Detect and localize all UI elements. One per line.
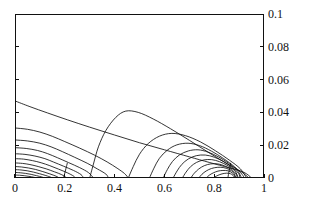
contour-line (15, 167, 59, 178)
x-tick-label: 0.8 (207, 182, 222, 194)
contour-line (15, 175, 37, 178)
contour-lines (15, 14, 264, 178)
x-tick (14, 174, 15, 178)
y-tick-left (15, 46, 19, 47)
y-tick-label: 0.1 (268, 8, 283, 20)
contour-line (15, 128, 128, 178)
contour-plot-figure: 00.20.40.60.81 00.020.040.060.080.1 (0, 0, 309, 203)
x-tick (64, 174, 65, 178)
y-tick-label: 0.04 (268, 106, 289, 118)
x-tick (114, 174, 115, 178)
x-tick (263, 174, 264, 178)
y-tick-left (15, 112, 19, 113)
y-tick-right (260, 79, 264, 80)
x-tick (214, 174, 215, 178)
y-tick-right (260, 112, 264, 113)
y-tick-label: 0.08 (268, 41, 289, 53)
y-tick-label: 0 (268, 172, 274, 184)
x-tick-label: 0.6 (157, 182, 172, 194)
y-tick-label: 0.06 (268, 74, 289, 86)
x-tick (164, 174, 165, 178)
y-tick-label: 0.02 (268, 139, 289, 151)
x-tick-label: 1 (261, 182, 267, 194)
x-tick-label: 0 (12, 182, 18, 194)
y-tick-left (15, 79, 19, 80)
contour-line (15, 170, 52, 178)
y-tick-right (260, 46, 264, 47)
contour-line (213, 173, 234, 178)
y-tick-left (15, 145, 19, 146)
x-tick-label: 0.4 (107, 182, 122, 194)
y-tick-right (260, 145, 264, 146)
x-tick-label: 0.2 (57, 182, 72, 194)
